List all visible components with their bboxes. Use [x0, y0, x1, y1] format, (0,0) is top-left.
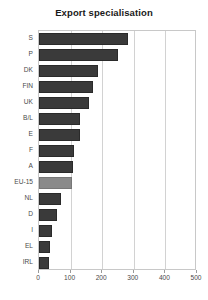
bar-row [39, 209, 195, 221]
bar-row [39, 65, 195, 77]
y-axis-label: FIN [22, 83, 33, 90]
x-axis-tick-label: 400 [159, 275, 170, 282]
bar-row [39, 225, 195, 237]
bar-s[interactable] [39, 33, 128, 45]
x-axis-tick-mark [133, 270, 134, 273]
bar-row [39, 145, 195, 157]
bar-row [39, 81, 195, 93]
bar-row [39, 177, 195, 189]
x-axis-tick-label: 0 [36, 275, 40, 282]
bar-row [39, 161, 195, 173]
bars-layer [39, 31, 195, 269]
y-axis-label: IRL [23, 259, 33, 266]
bar-dk[interactable] [39, 65, 98, 77]
bar-row [39, 193, 195, 205]
y-axis-label: B/L [23, 115, 33, 122]
bar-el[interactable] [39, 241, 50, 253]
chart-title: Export specialisation [0, 7, 208, 18]
bar-f[interactable] [39, 145, 74, 157]
x-axis-tick-label: 500 [190, 275, 201, 282]
bar-row [39, 241, 195, 253]
y-axis-label: NL [25, 195, 33, 202]
bar-irl[interactable] [39, 257, 49, 269]
y-axis-label: A [29, 163, 33, 170]
bar-row [39, 257, 195, 269]
bar-row [39, 113, 195, 125]
bar-eu-15[interactable] [39, 177, 72, 189]
x-axis-tick-label: 300 [127, 275, 138, 282]
y-axis-label: P [29, 51, 33, 58]
bar-row [39, 129, 195, 141]
y-axis-label: D [28, 211, 33, 218]
plot-area [38, 30, 196, 270]
x-axis-tick-label: 100 [64, 275, 75, 282]
y-axis-label: S [29, 35, 33, 42]
bar-p[interactable] [39, 49, 118, 61]
y-axis-label: E [29, 131, 33, 138]
y-axis-label: DK [24, 67, 33, 74]
bar-e[interactable] [39, 129, 80, 141]
bar-i[interactable] [39, 225, 52, 237]
x-axis-tick-mark [101, 270, 102, 273]
bar-b-l[interactable] [39, 113, 80, 125]
bar-uk[interactable] [39, 97, 89, 109]
x-axis-tick-mark [196, 270, 197, 273]
bar-row [39, 49, 195, 61]
bar-row [39, 97, 195, 109]
bar-nl[interactable] [39, 193, 61, 205]
bar-a[interactable] [39, 161, 73, 173]
y-axis-label: UK [24, 99, 33, 106]
x-axis-tick-mark [38, 270, 39, 273]
y-axis-labels: SPDKFINUKB/LEFAEU-15NLDIELIRL [0, 30, 35, 270]
x-axis-tick-mark [70, 270, 71, 273]
bar-row [39, 33, 195, 45]
bar-fin[interactable] [39, 81, 93, 93]
y-axis-label: F [29, 147, 33, 154]
x-axis-tick-mark [164, 270, 165, 273]
chart-container: Export specialisation SPDKFINUKB/LEFAEU-… [0, 0, 208, 300]
bar-d[interactable] [39, 209, 57, 221]
x-axis-ticks: 0100200300400500 [38, 270, 196, 296]
y-axis-label: EU-15 [14, 179, 33, 186]
x-axis-tick-label: 200 [96, 275, 107, 282]
y-axis-label: EL [25, 243, 33, 250]
y-axis-label: I [31, 227, 33, 234]
